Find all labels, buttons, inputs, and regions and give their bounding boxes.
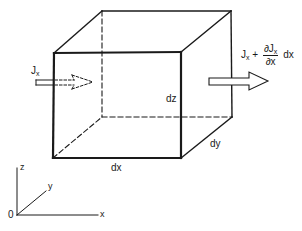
outflow-dx: dx xyxy=(283,49,294,60)
coordinate-axes xyxy=(17,168,98,215)
outflow-arrow xyxy=(209,72,268,90)
axis-x-label: x xyxy=(100,210,105,219)
edge-label-dz: dz xyxy=(166,94,177,104)
inflow-label: Jx xyxy=(31,66,40,76)
axis-z-label: z xyxy=(20,163,25,172)
outflow-label: Jx + ∂Jx ∂x dx xyxy=(241,44,294,67)
fraction-numerator: ∂Jx xyxy=(263,44,278,56)
control-volume-diagram: Jx Jx + ∂Jx ∂x dx dx dz dy 0 x y z xyxy=(0,0,302,231)
partial-derivative-fraction: ∂Jx ∂x xyxy=(263,44,278,67)
cube-visible-edges xyxy=(54,11,232,158)
numerator-symbol: ∂J xyxy=(264,43,274,54)
inflow-subscript: x xyxy=(36,70,40,77)
edge-label-dy: dy xyxy=(210,139,221,149)
fraction-denominator: ∂x xyxy=(263,56,278,67)
outflow-subscript: x xyxy=(246,54,250,61)
axis-origin-label: 0 xyxy=(8,210,14,220)
axis-y-label: y xyxy=(48,182,53,191)
inflow-arrow xyxy=(36,75,93,89)
diagram-drawing xyxy=(0,0,302,231)
numerator-subscript: x xyxy=(274,48,278,55)
plus-sign: + xyxy=(252,49,258,60)
edge-label-dx: dx xyxy=(111,163,122,173)
